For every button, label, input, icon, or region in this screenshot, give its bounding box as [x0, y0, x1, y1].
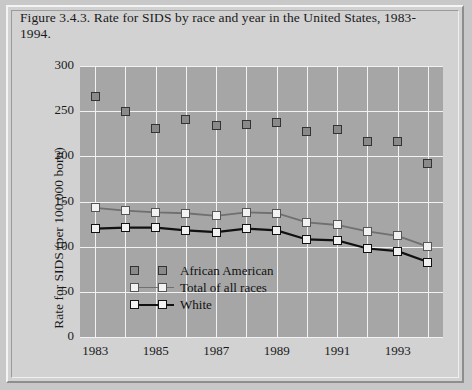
figure-inner-bevel	[11, 10, 459, 378]
figure-caption: Figure 3.4.3. Rate for SIDS by race and …	[20, 10, 420, 42]
figure-frame	[6, 5, 464, 383]
